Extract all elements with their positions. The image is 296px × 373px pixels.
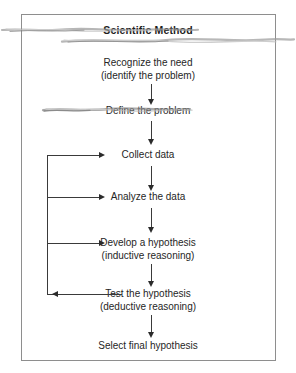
figure-title: Scientific Method bbox=[0, 24, 296, 36]
flow-node-line1: Define the problem bbox=[106, 105, 191, 116]
scientific-method-flowchart: Scientific Method Recognize the need (id… bbox=[0, 0, 296, 373]
connector-arrowhead-6 bbox=[148, 332, 154, 338]
connector-arrowhead-5 bbox=[148, 281, 154, 287]
flow-node-line1: Recognize the need bbox=[104, 57, 193, 68]
flow-node-develop-a-hypothesis: Develop a hypothesis (inductive reasonin… bbox=[0, 237, 296, 262]
feedback-return-branch-from-test-the-hypothesis bbox=[47, 294, 122, 295]
connector-line-4 bbox=[151, 208, 152, 229]
feedback-arrowhead-collect-data bbox=[99, 152, 105, 158]
flow-node-recognize-the-need: Recognize the need (identify the problem… bbox=[0, 57, 296, 82]
flow-node-define-the-problem: Define the problem bbox=[0, 105, 296, 118]
feedback-branch-to-analyze-the-data bbox=[47, 197, 99, 198]
feedback-branch-to-develop-a-hypothesis bbox=[47, 243, 99, 244]
flow-node-analyze-the-data: Analyze the data bbox=[0, 191, 296, 204]
flow-node-line2: (deductive reasoning) bbox=[0, 301, 296, 314]
feedback-loop-spine bbox=[47, 155, 48, 295]
flow-node-line1: Analyze the data bbox=[111, 191, 186, 202]
flow-node-test-the-hypothesis: Test the hypothesis (deductive reasoning… bbox=[0, 288, 296, 313]
feedback-arrowhead-develop-a-hypothesis bbox=[99, 240, 105, 246]
flow-node-select-final-hypothesis: Select final hypothesis bbox=[0, 340, 296, 353]
feedback-branch-to-collect-data bbox=[47, 155, 99, 156]
flow-node-line1: Collect data bbox=[122, 149, 175, 160]
flow-node-collect-data: Collect data bbox=[0, 149, 296, 162]
connector-line-2 bbox=[151, 121, 152, 141]
feedback-arrowhead-analyze-the-data bbox=[99, 194, 105, 200]
connector-line-3 bbox=[151, 166, 152, 187]
flow-node-line1: Select final hypothesis bbox=[98, 340, 198, 351]
connector-arrowhead-2 bbox=[148, 139, 154, 145]
flow-node-line1: Develop a hypothesis bbox=[100, 237, 196, 248]
feedback-arrowhead-return bbox=[52, 291, 58, 297]
flow-node-line2: (identify the problem) bbox=[0, 70, 296, 83]
connector-arrowhead-4 bbox=[148, 227, 154, 233]
flow-node-line2: (inductive reasoning) bbox=[0, 250, 296, 263]
